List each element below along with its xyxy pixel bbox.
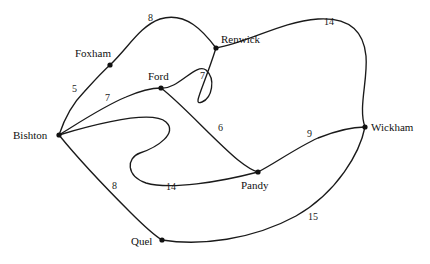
node-dots-group <box>56 45 367 242</box>
node-label-ford: Ford <box>148 70 169 82</box>
edge-bishton-foxham[interactable] <box>59 65 110 135</box>
edge-weight-renwick-wickham: 14 <box>324 16 334 27</box>
edge-weight-foxham-renwick: 8 <box>148 12 153 23</box>
node-dot-pandy[interactable] <box>255 169 260 174</box>
node-label-wickham: Wickham <box>371 121 414 133</box>
node-label-quel: Quel <box>131 235 152 247</box>
edge-weight-ford-pandy: 6 <box>218 122 223 133</box>
edge-bishton-ford[interactable] <box>59 88 161 135</box>
edge-ford-pandy[interactable] <box>161 88 258 172</box>
node-label-pandy: Pandy <box>241 179 269 191</box>
node-label-foxham: Foxham <box>75 47 112 59</box>
node-label-bishton: Bishton <box>13 129 48 141</box>
edge-foxham-renwick[interactable] <box>110 17 216 65</box>
node-dot-bishton[interactable] <box>56 132 61 137</box>
edge-weight-ford-renwick: 7 <box>200 70 205 81</box>
edge-weights-group: 8 14 7 5 7 6 9 8 14 15 <box>72 12 334 222</box>
weighted-graph-diagram: Foxham Ford Renwick Bishton Pandy Wickha… <box>0 0 430 264</box>
node-dot-foxham[interactable] <box>107 62 112 67</box>
edge-weight-bishton-quel: 8 <box>112 180 117 191</box>
node-dot-wickham[interactable] <box>362 124 367 129</box>
edge-weight-bishton-foxham: 5 <box>72 83 77 94</box>
edge-weight-quel-wickham: 15 <box>308 211 318 222</box>
edge-weight-bishton-pandy: 14 <box>166 181 176 192</box>
edge-weight-pandy-wickham: 9 <box>307 128 312 139</box>
node-labels-group: Foxham Ford Renwick Bishton Pandy Wickha… <box>13 33 414 247</box>
node-label-renwick: Renwick <box>221 33 261 45</box>
node-dot-ford[interactable] <box>158 85 163 90</box>
graph-canvas: Foxham Ford Renwick Bishton Pandy Wickha… <box>0 0 430 264</box>
node-dot-quel[interactable] <box>159 237 164 242</box>
edge-weight-bishton-ford: 7 <box>105 92 110 103</box>
node-dot-renwick[interactable] <box>213 45 218 50</box>
